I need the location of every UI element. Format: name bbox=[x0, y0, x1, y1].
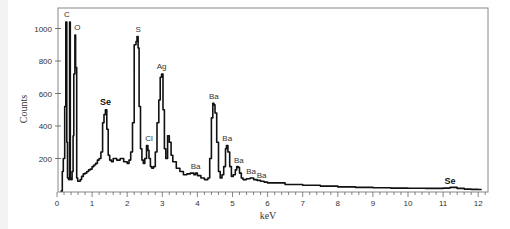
x-tick-label: 2 bbox=[125, 199, 130, 208]
spectrum-line bbox=[61, 22, 482, 191]
plot-frame bbox=[58, 8, 488, 192]
peak-label-c: C bbox=[64, 10, 70, 19]
x-axis-title: keV bbox=[260, 210, 277, 221]
peak-label-se: Se bbox=[445, 176, 456, 186]
x-tick-label: 10 bbox=[404, 199, 413, 208]
peak-label-cl: Cl bbox=[145, 134, 153, 143]
peak-label-ba: Ba bbox=[257, 171, 267, 180]
peak-label-ba: Ba bbox=[234, 156, 244, 165]
x-tick-label: 12 bbox=[474, 199, 483, 208]
peak-label-ba: Ba bbox=[191, 162, 201, 171]
y-tick-label: 1000 bbox=[34, 25, 52, 34]
x-tick-label: 6 bbox=[265, 199, 270, 208]
x-tick-label: 11 bbox=[439, 199, 448, 208]
x-axis: 0123456789101112 bbox=[55, 192, 485, 208]
peak-label-ba: Ba bbox=[246, 167, 256, 176]
y-axis: 2004006008001000 bbox=[34, 25, 61, 164]
y-tick-label: 200 bbox=[39, 155, 53, 164]
peak-label-ba: Ba bbox=[222, 134, 232, 143]
x-tick-label: 7 bbox=[300, 199, 305, 208]
x-tick-label: 0 bbox=[55, 199, 60, 208]
peak-label-s: S bbox=[135, 25, 140, 34]
y-tick-label: 800 bbox=[39, 57, 53, 66]
x-tick-label: 4 bbox=[195, 199, 200, 208]
peak-labels: COSeSClAgBaBaBaBaBaBaSe bbox=[64, 10, 456, 186]
x-tick-label: 9 bbox=[371, 199, 376, 208]
y-axis-title: Counts bbox=[18, 95, 29, 123]
x-tick-label: 3 bbox=[160, 199, 165, 208]
y-tick-label: 600 bbox=[39, 90, 53, 99]
x-tick-label: 1 bbox=[90, 199, 95, 208]
peak-label-o: O bbox=[74, 23, 80, 32]
x-tick-label: 8 bbox=[336, 199, 341, 208]
peak-label-ba: Ba bbox=[209, 92, 219, 101]
x-tick-label: 5 bbox=[230, 199, 235, 208]
peak-label-ag: Ag bbox=[157, 62, 167, 71]
eds-spectrum-chart: 2004006008001000 0123456789101112 COSeSC… bbox=[0, 0, 510, 229]
peak-label-se: Se bbox=[100, 97, 111, 107]
y-tick-label: 400 bbox=[39, 122, 53, 131]
